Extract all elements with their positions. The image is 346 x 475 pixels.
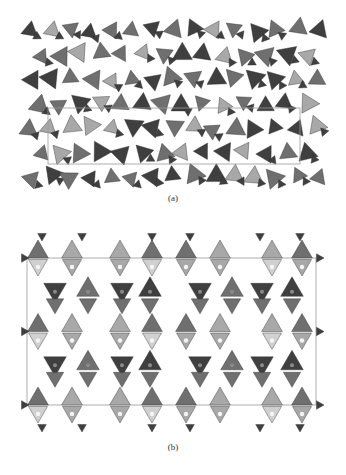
- tetrahedron-icon: [165, 166, 181, 181]
- tetrahedron-icon: [110, 387, 131, 405]
- tetrahedron-icon: [63, 157, 72, 165]
- tetrahedron-icon: [223, 372, 240, 387]
- tetrahedron-icon: [110, 240, 131, 258]
- tetrahedron-icon: [28, 240, 49, 258]
- tetrahedron-icon: [62, 314, 83, 332]
- tetrahedron-icon: [155, 31, 164, 39]
- tetrahedron-icon: [296, 425, 305, 433]
- tetrahedron-icon: [192, 43, 211, 60]
- tetrahedron-icon: [62, 68, 79, 83]
- tetrahedron-icon: [21, 70, 38, 89]
- tetrahedron-icon: [197, 129, 206, 137]
- tetrahedron-icon: [176, 314, 197, 332]
- tetrahedron-icon: [33, 145, 48, 160]
- tetrahedron-icon: [67, 43, 85, 63]
- tetrahedron-icon: [46, 299, 63, 314]
- tetrahedron-icon: [82, 70, 100, 90]
- tetrahedron-icon: [191, 299, 208, 314]
- tetrahedron-icon: [196, 80, 205, 88]
- tetrahedron-icon: [46, 372, 63, 387]
- tetrahedron-icon: [79, 299, 96, 314]
- tetrahedron-icon: [278, 180, 286, 189]
- tetrahedron-icon: [228, 107, 236, 116]
- atom-icon: [290, 290, 294, 294]
- tetrahedron-icon: [215, 134, 224, 142]
- tetrahedron-icon: [317, 327, 325, 336]
- tetrahedron-icon: [148, 425, 157, 433]
- tetrahedron-icon: [148, 234, 157, 242]
- tetrahedron-icon: [229, 58, 237, 67]
- tetrahedron-icon: [21, 21, 38, 37]
- panel-a: (a): [0, 0, 346, 210]
- tetrahedron-icon: [256, 234, 265, 242]
- tetrahedron-icon: [186, 234, 195, 242]
- tetrahedron-icon: [262, 240, 283, 258]
- tetrahedron-icon: [111, 45, 125, 61]
- tetrahedron-icon: [38, 425, 47, 433]
- tetrahedron-icon: [233, 142, 249, 159]
- tetrahedron-icon: [103, 119, 118, 134]
- tetrahedron-icon: [78, 425, 87, 433]
- tetrahedron-icon: [253, 299, 270, 314]
- tetrahedron-icon: [262, 314, 283, 332]
- atom-icon: [70, 412, 74, 416]
- atom-icon: [290, 363, 294, 367]
- panel-a-caption: (a): [0, 193, 346, 203]
- tetrahedron-icon: [93, 42, 111, 59]
- tetrahedron-icon: [113, 372, 130, 387]
- tetrahedron-icon: [269, 58, 277, 67]
- tetrahedron-icon: [142, 314, 163, 332]
- atom-icon: [53, 363, 57, 367]
- tetrahedron-icon: [309, 20, 327, 38]
- tetrahedron-icon: [28, 387, 49, 405]
- atom-icon: [198, 290, 202, 294]
- tetrahedron-icon: [62, 387, 83, 405]
- tetrahedron-icon: [246, 70, 266, 90]
- tetrahedron-icon: [104, 105, 113, 113]
- tetrahedron-icon: [22, 401, 30, 410]
- tetrahedron-icon: [142, 240, 163, 258]
- atom-icon: [148, 290, 152, 294]
- atom-icon: [36, 265, 40, 269]
- tetrahedron-icon: [45, 58, 53, 67]
- tetrahedron-icon: [210, 240, 231, 258]
- tetrahedron-icon: [78, 234, 87, 242]
- atom-icon: [118, 265, 122, 269]
- tetrahedron-icon: [28, 314, 49, 332]
- tetrahedron-icon: [176, 240, 197, 258]
- tetrahedron-icon: [73, 143, 91, 163]
- tetrahedron-icon: [63, 115, 82, 133]
- atom-icon: [148, 363, 152, 367]
- tetrahedron-icon: [210, 314, 231, 332]
- tetrahedron-icon: [256, 425, 265, 433]
- atom-icon: [300, 412, 304, 416]
- tetrahedron-icon: [289, 17, 307, 34]
- tetrahedron-icon: [262, 387, 283, 405]
- atom-icon: [270, 265, 274, 269]
- tetrahedron-icon: [302, 93, 320, 113]
- tetrahedron-icon: [122, 21, 138, 36]
- tetrahedron-icon: [317, 401, 325, 410]
- tetrahedron-icon: [125, 119, 145, 137]
- tetrahedron-icon: [288, 105, 296, 114]
- tetrahedron-icon: [303, 177, 311, 186]
- tetrahedron-icon: [186, 116, 204, 132]
- atom-icon: [36, 412, 40, 416]
- tetrahedron-icon: [292, 387, 313, 405]
- tetrahedron-icon: [283, 299, 300, 314]
- tetrahedron-icon: [258, 178, 266, 187]
- tetrahedron-icon: [176, 387, 197, 405]
- tetrahedron-icon: [94, 141, 112, 162]
- tetrahedron-icon: [102, 22, 117, 39]
- tetrahedron-icon: [292, 240, 313, 258]
- atom-icon: [218, 338, 222, 342]
- tetrahedron-icon: [141, 372, 158, 387]
- tetrahedron-icon: [195, 96, 210, 112]
- tetrahedron-icon: [292, 314, 313, 332]
- atom-icon: [260, 290, 264, 294]
- atom-icon: [120, 363, 124, 367]
- tetrahedron-icon: [257, 96, 274, 111]
- tetrahedron-icon: [156, 178, 164, 187]
- tetrahedron-icon: [110, 146, 129, 165]
- tetrahedron-icon: [310, 169, 325, 185]
